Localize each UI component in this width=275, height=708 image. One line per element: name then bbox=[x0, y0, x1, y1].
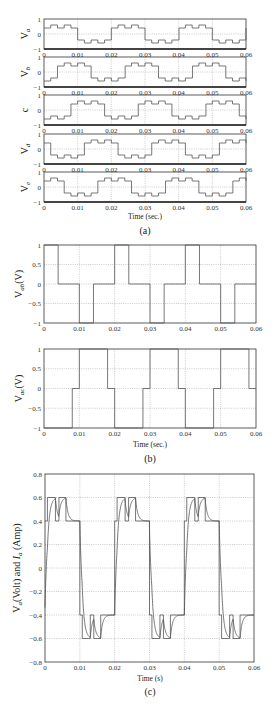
x-tick-label: 0.01 bbox=[74, 664, 87, 672]
y-tick-label: 1 bbox=[38, 242, 42, 250]
subplot-d: 00.010.020.030.040.050.06−101Vd bbox=[19, 131, 253, 175]
figure: 00.010.020.030.040.050.06−101Va00.010.02… bbox=[0, 0, 275, 708]
y-tick-label: −0.5 bbox=[28, 300, 41, 308]
y-tick-label: −1 bbox=[34, 46, 42, 54]
x-tick-label: 0.04 bbox=[173, 204, 186, 212]
subplot-vac: 00.010.020.030.040.050.06−1−0.500.51Vac(… bbox=[13, 346, 263, 439]
x-tick-label: 0.06 bbox=[250, 325, 263, 333]
panel-c-caption: (c) bbox=[144, 686, 155, 698]
x-tick-label: 0.02 bbox=[105, 204, 118, 212]
x-tick-label: 0.06 bbox=[240, 204, 253, 212]
x-tick-label: 0.04 bbox=[179, 325, 192, 333]
y-tick-label: 1 bbox=[38, 131, 42, 139]
y-tick-label: 1 bbox=[38, 16, 42, 24]
axes-b0: 00.010.020.030.040.050.06−1−0.500.51 bbox=[28, 242, 262, 334]
y-axis-label: Ve bbox=[19, 182, 32, 192]
y-tick-label: 1 bbox=[38, 346, 42, 354]
y-tick-label: 0.5 bbox=[32, 365, 41, 373]
y-axis-label: Vb bbox=[19, 66, 32, 77]
y-tick-label: 0.6 bbox=[33, 494, 42, 502]
y-tick-label: 1 bbox=[38, 54, 42, 62]
subplot-b: 00.010.020.030.040.050.06−101Vb bbox=[19, 54, 253, 98]
y-tick-label: −1 bbox=[34, 84, 42, 92]
x-tick-label: 0.02 bbox=[109, 664, 122, 672]
y-tick-label: 1 bbox=[38, 92, 42, 100]
panel-a-xlabel: Time (sec.) bbox=[128, 212, 162, 221]
x-tick-label: 0 bbox=[42, 204, 46, 212]
panel-b-xlabel: Time (sec.) bbox=[133, 440, 167, 449]
x-tick-label: 0.05 bbox=[206, 204, 219, 212]
y-tick-label: 0 bbox=[38, 31, 42, 39]
x-tick-label: 0.03 bbox=[144, 325, 157, 333]
x-tick-label: 0.04 bbox=[179, 430, 192, 438]
subplot-c: 00.010.020.030.040.050.06−101c bbox=[19, 92, 253, 136]
subplot-e: 00.010.020.030.040.050.06−101Ve bbox=[19, 169, 253, 213]
y-tick-label: 0 bbox=[38, 69, 42, 77]
y-tick-label: −1 bbox=[34, 425, 42, 433]
y-tick-label: −0.2 bbox=[29, 588, 42, 596]
subplot-a: 00.010.020.030.040.050.06−101Va bbox=[19, 16, 253, 60]
panel-a-caption: (a) bbox=[139, 225, 150, 237]
x-tick-label: 0.03 bbox=[144, 430, 157, 438]
y-tick-label: −1 bbox=[34, 199, 42, 207]
y-axis-label: Va(Volt) and Ia (Amp) bbox=[11, 523, 24, 612]
x-tick-label: 0.05 bbox=[213, 664, 226, 672]
y-tick-label: 1 bbox=[38, 169, 42, 177]
panel-c-voltage-current: 00.010.020.030.040.050.06−0.8−0.6−0.4−0.… bbox=[11, 471, 261, 673]
x-tick-label: 0.06 bbox=[248, 664, 261, 672]
axes-a4: 00.010.020.030.040.050.06−101 bbox=[34, 169, 253, 213]
x-tick-label: 0 bbox=[43, 664, 47, 672]
x-tick-label: 0.05 bbox=[215, 430, 228, 438]
y-tick-label: 0 bbox=[38, 385, 42, 393]
axes-a0: 00.010.020.030.040.050.06−101 bbox=[34, 16, 253, 60]
y-tick-label: 0.5 bbox=[32, 261, 41, 269]
y-tick-label: −1 bbox=[34, 320, 42, 328]
panel-c-xlabel: Time (s) bbox=[137, 674, 163, 683]
y-tick-label: −0.5 bbox=[28, 405, 41, 413]
axes-c: 00.010.020.030.040.050.06−0.8−0.6−0.4−0.… bbox=[29, 471, 260, 673]
x-tick-label: 0.04 bbox=[178, 664, 191, 672]
y-tick-label: −1 bbox=[34, 161, 42, 169]
panel-a-phase-voltages: 00.010.020.030.040.050.06−101Va00.010.02… bbox=[19, 16, 253, 213]
waveform-line bbox=[44, 349, 256, 428]
x-tick-label: 0 bbox=[42, 325, 46, 333]
x-tick-label: 0.02 bbox=[109, 325, 122, 333]
subplot-vab: 00.010.020.030.040.050.06−1−0.500.51Vab(… bbox=[13, 242, 263, 334]
x-tick-label: 0.01 bbox=[73, 325, 86, 333]
panel-b-caption: (b) bbox=[144, 453, 156, 465]
y-tick-label: 0 bbox=[38, 281, 42, 289]
y-tick-label: 0 bbox=[38, 107, 42, 115]
x-tick-label: 0.03 bbox=[139, 204, 152, 212]
y-tick-label: 0.4 bbox=[33, 518, 42, 526]
x-tick-label: 0.02 bbox=[109, 430, 122, 438]
x-tick-label: 0.01 bbox=[73, 430, 86, 438]
panel-b-line-voltages: 00.010.020.030.040.050.06−1−0.500.51Vab(… bbox=[13, 242, 263, 439]
y-tick-label: 0 bbox=[38, 146, 42, 154]
y-tick-label: −0.4 bbox=[29, 612, 42, 620]
y-tick-label: 0 bbox=[38, 184, 42, 192]
y-tick-label: 0 bbox=[39, 565, 43, 573]
y-tick-label: 0.8 bbox=[33, 471, 42, 479]
x-tick-label: 0 bbox=[42, 430, 46, 438]
axes-b1: 00.010.020.030.040.050.06−1−0.500.51 bbox=[28, 346, 262, 439]
y-axis-label: Vab(V) bbox=[13, 270, 26, 298]
x-tick-label: 0.03 bbox=[143, 664, 156, 672]
x-tick-label: 0.05 bbox=[215, 325, 228, 333]
y-tick-label: −0.6 bbox=[29, 635, 42, 643]
y-axis-label: Vac(V) bbox=[13, 375, 26, 403]
y-axis-label: c bbox=[19, 107, 30, 112]
y-axis-label: Vd bbox=[19, 143, 32, 154]
x-tick-label: 0.06 bbox=[250, 430, 263, 438]
y-tick-label: 0.2 bbox=[33, 541, 42, 549]
y-tick-label: −0.8 bbox=[29, 659, 42, 667]
x-tick-label: 0.01 bbox=[72, 204, 85, 212]
y-axis-label: Va bbox=[19, 28, 32, 39]
y-tick-label: −1 bbox=[34, 122, 42, 130]
axes-a2: 00.010.020.030.040.050.06−101 bbox=[34, 92, 253, 136]
axes-a1: 00.010.020.030.040.050.06−101 bbox=[34, 54, 253, 98]
